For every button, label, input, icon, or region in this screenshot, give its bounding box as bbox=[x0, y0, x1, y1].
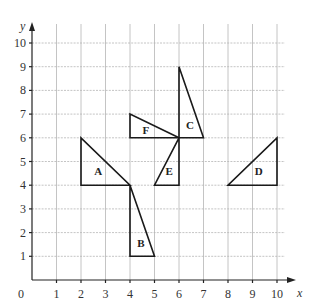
x-tick-label: 3 bbox=[103, 287, 109, 301]
x-tick-label: 4 bbox=[127, 287, 133, 301]
triangle-label: C bbox=[186, 119, 194, 131]
y-tick-label: 2 bbox=[20, 226, 26, 240]
tick-labels: 01234567891012345678910 bbox=[14, 36, 283, 301]
x-tick-label: 10 bbox=[271, 287, 283, 301]
y-tick-label: 5 bbox=[20, 155, 26, 169]
x-tick-label: 9 bbox=[250, 287, 256, 301]
y-tick-label: 9 bbox=[20, 60, 26, 74]
triangle-label: D bbox=[255, 165, 263, 177]
y-tick-label: 4 bbox=[20, 178, 26, 192]
x-tick-label: 1 bbox=[54, 287, 60, 301]
x-tick-label: 7 bbox=[201, 287, 207, 301]
x-tick-label: 0 bbox=[18, 287, 24, 301]
triangle-b: B bbox=[130, 185, 155, 256]
grid-lines bbox=[32, 24, 285, 280]
triangle-label: F bbox=[143, 124, 150, 136]
triangle-label: A bbox=[94, 165, 102, 177]
x-tick-label: 5 bbox=[152, 287, 158, 301]
y-axis-label: y bbox=[19, 19, 26, 33]
y-tick-label: 8 bbox=[20, 83, 26, 97]
y-tick-label: 7 bbox=[20, 107, 26, 121]
y-tick-label: 1 bbox=[20, 249, 26, 263]
y-tick-label: 3 bbox=[20, 202, 26, 216]
triangle-c: C bbox=[179, 67, 204, 138]
x-axis-arrow-icon bbox=[287, 277, 296, 283]
x-tick-label: 8 bbox=[225, 287, 231, 301]
triangle-label: B bbox=[137, 237, 145, 249]
y-tick-label: 6 bbox=[20, 131, 26, 145]
y-axis-arrow-icon bbox=[29, 22, 35, 31]
axes: x y bbox=[19, 19, 303, 300]
triangle-label: E bbox=[166, 165, 173, 177]
y-tick-label: 10 bbox=[14, 36, 26, 50]
x-axis-label: x bbox=[296, 286, 303, 300]
coordinate-grid-diagram: x y 01234567891012345678910 ABCDEF bbox=[0, 0, 312, 308]
x-tick-label: 6 bbox=[176, 287, 182, 301]
x-tick-label: 2 bbox=[78, 287, 84, 301]
